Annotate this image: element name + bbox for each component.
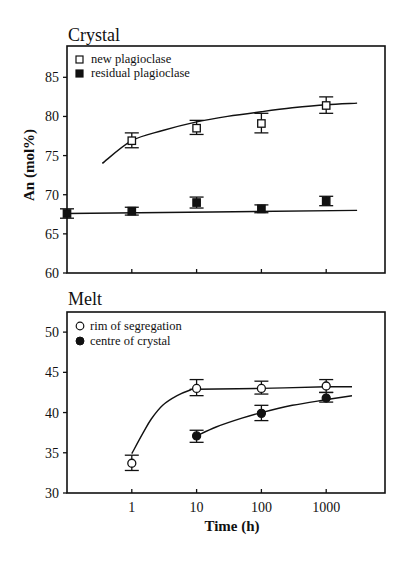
- y-tick-label: 30: [45, 486, 59, 501]
- data-point: [125, 455, 139, 470]
- melt-panel: Melt 3035404550 1101001000 rim of segreg…: [45, 289, 385, 535]
- crystal-panel: Crystal 606570758085 new plagioclase res…: [21, 25, 385, 281]
- filled-square-marker-icon: [258, 205, 265, 212]
- y-tick-label: 65: [45, 227, 59, 242]
- melt-legend: rim of segregation centre of crystal: [76, 319, 182, 348]
- open-square-legend-icon: [76, 56, 83, 63]
- open-square-marker-icon: [258, 120, 265, 127]
- legend-residual-plagioclase: residual plagioclase: [91, 66, 190, 80]
- melt-y-axis: 3035404550: [45, 325, 67, 501]
- open-square-marker-icon: [323, 102, 330, 109]
- open-circle-marker-icon: [322, 382, 330, 390]
- y-tick-label: 70: [45, 188, 59, 203]
- filled-circle-legend-icon: [76, 337, 84, 345]
- filled-square-marker-icon: [193, 199, 200, 206]
- y-tick-label: 45: [45, 365, 59, 380]
- data-point: [190, 380, 204, 396]
- legend-new-plagioclase: new plagioclase: [91, 52, 172, 66]
- filled-square-marker-icon: [63, 210, 70, 217]
- filled-square-legend-icon: [76, 70, 83, 77]
- data-point: [254, 405, 268, 420]
- y-tick-label: 75: [45, 149, 59, 164]
- y-tick-label: 85: [45, 70, 59, 85]
- open-circle-marker-icon: [257, 384, 265, 392]
- y-tick-label: 80: [45, 109, 59, 124]
- figure: Crystal 606570758085 new plagioclase res…: [0, 0, 405, 563]
- x-tick-label: 100: [251, 500, 272, 515]
- filled-circle-marker-icon: [193, 432, 201, 440]
- data-point: [319, 196, 333, 205]
- legend-rim-of-segregation: rim of segregation: [90, 319, 182, 333]
- crystal-plot-frame: [67, 46, 385, 273]
- x-tick-label: 10: [190, 500, 204, 515]
- data-point: [125, 133, 139, 148]
- filled-circle-marker-icon: [322, 394, 330, 402]
- open-square-marker-icon: [193, 124, 200, 131]
- filled-circle-marker-icon: [257, 409, 265, 417]
- x-tick-label: 1: [128, 500, 135, 515]
- fit-curve: [132, 387, 352, 454]
- data-point: [254, 113, 268, 133]
- open-circle-legend-icon: [76, 322, 84, 330]
- legend-centre-of-crystal: centre of crystal: [90, 334, 171, 348]
- y-tick-label: 40: [45, 406, 59, 421]
- fit-curve: [102, 103, 357, 163]
- y-axis-label: An (mol%): [21, 129, 38, 201]
- data-point: [190, 430, 204, 442]
- melt-fit-curves: [132, 387, 352, 454]
- data-point: [319, 380, 333, 393]
- y-tick-label: 60: [45, 266, 59, 281]
- y-tick-label: 50: [45, 325, 59, 340]
- filled-square-marker-icon: [323, 197, 330, 204]
- filled-square-marker-icon: [128, 207, 135, 214]
- open-square-marker-icon: [128, 137, 135, 144]
- open-circle-marker-icon: [193, 384, 201, 392]
- crystal-panel-title: Crystal: [68, 25, 120, 45]
- y-tick-label: 35: [45, 446, 59, 461]
- x-axis-label: Time (h): [204, 518, 259, 535]
- crystal-data-points: [60, 97, 333, 218]
- data-point: [190, 197, 204, 208]
- crystal-fit-curves: [67, 103, 357, 213]
- melt-panel-title: Melt: [68, 289, 102, 309]
- open-circle-marker-icon: [128, 459, 136, 467]
- x-tick-label: 1000: [312, 500, 340, 515]
- fit-curve: [67, 210, 357, 213]
- crystal-y-axis: 606570758085: [45, 70, 67, 281]
- crystal-legend: new plagioclase residual plagioclase: [76, 52, 190, 80]
- data-point: [125, 207, 139, 215]
- melt-data-points: [125, 380, 333, 471]
